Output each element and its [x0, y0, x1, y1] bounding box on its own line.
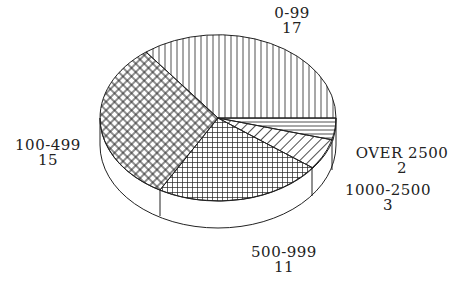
- pie-chart: 0-99 17 OVER 2500 2 1000-2500 3 500-999 …: [0, 0, 460, 281]
- label-value: 17: [262, 21, 322, 36]
- label-value: 11: [240, 260, 328, 275]
- label-value: 3: [334, 198, 442, 213]
- label-500-999: 500-999 11: [240, 245, 328, 275]
- label-value: 15: [6, 153, 90, 168]
- label-1000-2500: 1000-2500 3: [334, 183, 442, 213]
- label-over-2500: OVER 2500 2: [348, 146, 456, 176]
- label-100-499: 100-499 15: [6, 138, 90, 168]
- label-value: 2: [348, 161, 456, 176]
- label-0-99: 0-99 17: [262, 6, 322, 36]
